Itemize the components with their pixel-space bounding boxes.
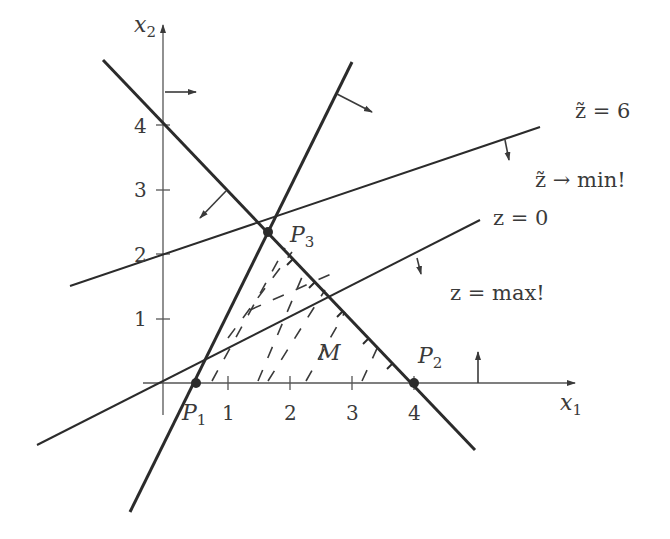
y-tick-labels: 1 2 3 4 xyxy=(134,114,147,331)
label-p3: P3 xyxy=(289,222,314,251)
svg-text:1: 1 xyxy=(222,401,235,425)
svg-text:4: 4 xyxy=(134,114,147,138)
svg-text:2: 2 xyxy=(134,243,147,267)
x1-axis-label: x1 xyxy=(560,390,582,419)
label-z-equals-0: z = 0 xyxy=(493,206,548,230)
label-z-max: z = max! xyxy=(450,281,545,305)
svg-text:3: 3 xyxy=(346,401,359,425)
label-p2: P2 xyxy=(417,343,442,372)
arrow-constraint-2 xyxy=(337,94,372,112)
point-p3 xyxy=(263,227,273,237)
svg-text:3: 3 xyxy=(134,178,147,202)
lp-diagram: 1 2 3 4 1 2 3 4 x2 x1 P1 P2 P3 M z̃ = 6 … xyxy=(0,0,670,539)
svg-text:2: 2 xyxy=(284,401,297,425)
svg-text:4: 4 xyxy=(408,401,421,425)
point-p1 xyxy=(191,378,201,388)
x2-axis-label: x2 xyxy=(134,12,156,41)
arrow-z xyxy=(417,258,421,274)
x-tick-labels: 1 2 3 4 xyxy=(222,401,421,425)
label-z-tilde-equals-6: z̃ = 6 xyxy=(575,99,630,123)
point-p2 xyxy=(409,378,419,388)
label-p1: P1 xyxy=(181,400,206,429)
arrow-z-tilde xyxy=(505,140,509,160)
label-z-tilde-min: z̃ → min! xyxy=(535,168,626,192)
arrow-constraint-1 xyxy=(200,191,226,218)
region-label-m: M xyxy=(317,340,341,365)
svg-text:1: 1 xyxy=(134,307,147,331)
